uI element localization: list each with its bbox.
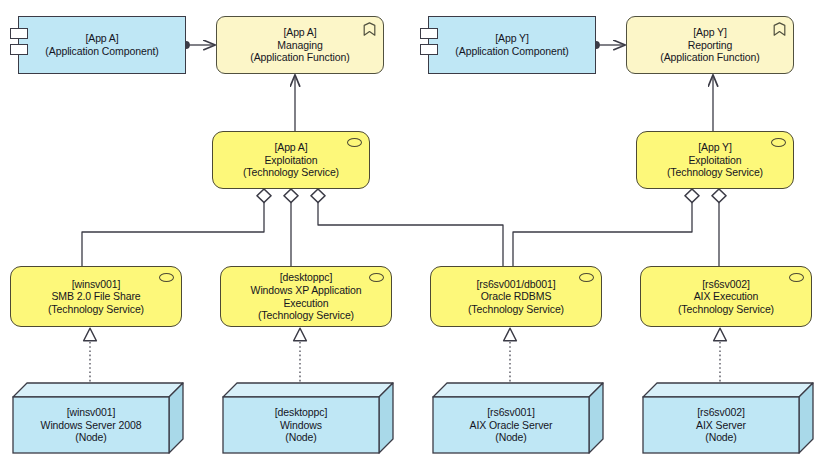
technology-service-icon	[159, 273, 174, 282]
node-label-group: [desktoppc] Windows (Node)	[222, 396, 380, 454]
element-id-label: [rs6sv001/db001]	[477, 278, 556, 291]
element-id-label: [App Y]	[693, 26, 727, 39]
element-app-y-exploitation[interactable]: [App Y] Exploitation (Technology Service…	[636, 131, 794, 189]
element-id-label: [winsv001]	[72, 278, 121, 291]
uml-component-icon-lower	[10, 44, 28, 55]
element-name-label-2: Execution	[283, 297, 328, 310]
element-type-label: (Technology Service)	[678, 303, 774, 316]
element-type-label: (Application Component)	[455, 45, 568, 58]
technology-service-icon	[579, 273, 594, 282]
element-id-label: [rs6sv002]	[697, 406, 744, 419]
element-app-y-reporting[interactable]: [App Y] Reporting (Application Function)	[626, 16, 794, 74]
aggregation-app-y-exploitation-to-oracle	[513, 189, 692, 266]
element-name-label: Managing	[277, 39, 322, 52]
node-label-group: [winsv001] Windows Server 2008 (Node)	[12, 396, 170, 454]
element-id-label: [App A]	[85, 32, 118, 45]
element-node-winsv001[interactable]: [winsv001] Windows Server 2008 (Node)	[12, 382, 184, 454]
element-app-a-exploitation[interactable]: [App A] Exploitation (Technology Service…	[212, 131, 370, 189]
element-type-label: (Application Function)	[660, 51, 759, 64]
element-id-label: [desktoppc]	[275, 406, 328, 419]
element-name-label: Reporting	[688, 39, 733, 52]
element-type-label: (Application Component)	[45, 45, 158, 58]
technology-service-icon	[789, 273, 804, 282]
element-id-label: [App Y]	[698, 141, 732, 154]
element-id-label: [App A]	[283, 26, 316, 39]
element-type-label: (Technology Service)	[258, 309, 354, 322]
node-label-group: [rs6sv002] AIX Server (Node)	[642, 396, 800, 454]
element-name-label: Windows XP Application	[251, 284, 362, 297]
element-name-label: Exploitation	[264, 154, 317, 167]
uml-component-icon-lower	[420, 44, 438, 55]
aggregation-app-a-exploitation-to-smb	[82, 189, 264, 266]
element-type-label: (Node)	[75, 431, 107, 444]
element-type-label: (Technology Service)	[667, 166, 763, 179]
application-function-icon	[363, 22, 376, 36]
element-node-desktoppc[interactable]: [desktoppc] Windows (Node)	[222, 382, 394, 454]
element-type-label: (Application Function)	[250, 51, 349, 64]
element-type-label: (Node)	[495, 431, 527, 444]
element-app-y-component[interactable]: [App Y] (Application Component)	[428, 16, 596, 74]
archimate-diagram-canvas: [App A] (Application Component) [App Y] …	[0, 0, 818, 469]
element-node-rs6sv001[interactable]: [rs6sv001] AIX Oracle Server (Node)	[432, 382, 604, 454]
element-name-label: Exploitation	[688, 154, 741, 167]
element-id-label: [rs6sv001]	[487, 406, 534, 419]
technology-service-icon	[771, 138, 786, 147]
element-type-label: (Node)	[285, 431, 317, 444]
element-svc-aix[interactable]: [rs6sv002] AIX Execution (Technology Ser…	[640, 266, 812, 327]
element-type-label: (Technology Service)	[468, 303, 564, 316]
element-id-label: [App A]	[274, 141, 307, 154]
element-node-rs6sv002[interactable]: [rs6sv002] AIX Server (Node)	[642, 382, 814, 454]
element-id-label: [desktoppc]	[280, 271, 333, 284]
technology-service-icon	[347, 138, 362, 147]
element-name-label: AIX Server	[696, 419, 746, 432]
uml-component-icon	[420, 28, 438, 39]
element-type-label: (Technology Service)	[48, 303, 144, 316]
element-svc-oracle[interactable]: [rs6sv001/db001] Oracle RDBMS (Technolog…	[430, 266, 602, 327]
element-type-label: (Technology Service)	[243, 166, 339, 179]
element-type-label: (Node)	[705, 431, 737, 444]
element-app-a-component[interactable]: [App A] (Application Component)	[18, 16, 186, 74]
element-svc-winxp[interactable]: [desktoppc] Windows XP Application Execu…	[220, 266, 392, 327]
element-app-a-managing[interactable]: [App A] Managing (Application Function)	[216, 16, 384, 74]
aggregation-app-a-exploitation-to-oracle	[318, 189, 503, 266]
element-svc-smb[interactable]: [winsv001] SMB 2.0 File Share (Technolog…	[10, 266, 182, 327]
element-name-label: Windows	[280, 419, 322, 432]
element-id-label: [winsv001]	[67, 406, 116, 419]
element-id-label: [App Y]	[495, 32, 529, 45]
element-name-label: SMB 2.0 File Share	[51, 290, 140, 303]
uml-component-icon	[10, 28, 28, 39]
application-function-icon	[773, 22, 786, 36]
element-name-label: Oracle RDBMS	[481, 290, 552, 303]
element-name-label: AIX Execution	[694, 290, 759, 303]
element-name-label: Windows Server 2008	[41, 419, 142, 432]
element-name-label: AIX Oracle Server	[470, 419, 553, 432]
node-label-group: [rs6sv001] AIX Oracle Server (Node)	[432, 396, 590, 454]
technology-service-icon	[369, 273, 384, 282]
element-id-label: [rs6sv002]	[702, 278, 749, 291]
